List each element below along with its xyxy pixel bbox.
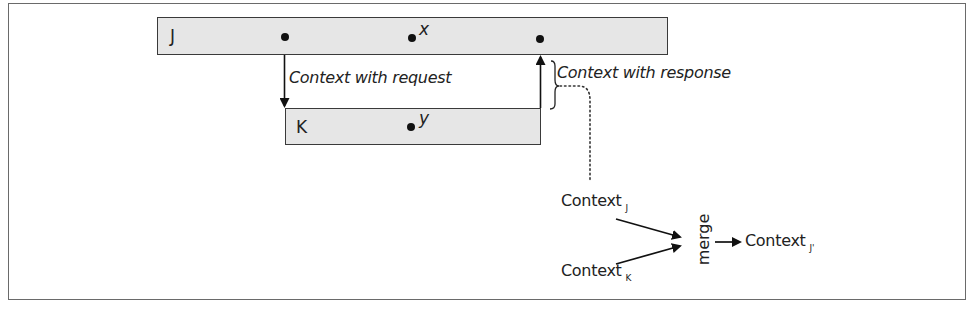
connector-overlay: [0, 0, 970, 313]
context-j-merge-arrow: [616, 219, 680, 237]
response-brace-icon: [550, 61, 559, 109]
context-k-merge-arrow: [616, 246, 680, 264]
dotted-connector: [560, 86, 590, 182]
